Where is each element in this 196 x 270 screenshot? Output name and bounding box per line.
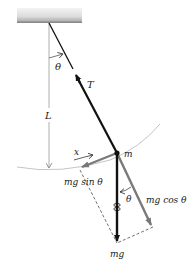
- tension-arrow: [76, 75, 80, 83]
- tension-label: T: [87, 79, 95, 90]
- theta-angle-arc-top: [49, 54, 63, 58]
- mass-label: m: [124, 149, 133, 159]
- pendulum-mass: [114, 150, 119, 155]
- displacement-label: x: [74, 147, 79, 157]
- tangential-force-label: mg sin θ: [64, 177, 103, 187]
- weight-label: mg: [110, 249, 125, 259]
- tangential-force-vector: [82, 153, 117, 167]
- pendulum-diagram: θ T L x m mg sin θ θ mg cos θ mg: [0, 0, 196, 270]
- radial-force-vector: [117, 153, 151, 225]
- theta-angle-arc-bottom: [120, 187, 131, 192]
- length-label: L: [44, 110, 52, 121]
- radial-force-label: mg cos θ: [146, 195, 187, 205]
- theta-label-top: θ: [55, 61, 61, 72]
- ceiling-support: [17, 8, 82, 23]
- theta-label-bottom: θ: [126, 194, 132, 204]
- pendulum-string-lower: [79, 81, 117, 153]
- swing-arc: [17, 124, 160, 170]
